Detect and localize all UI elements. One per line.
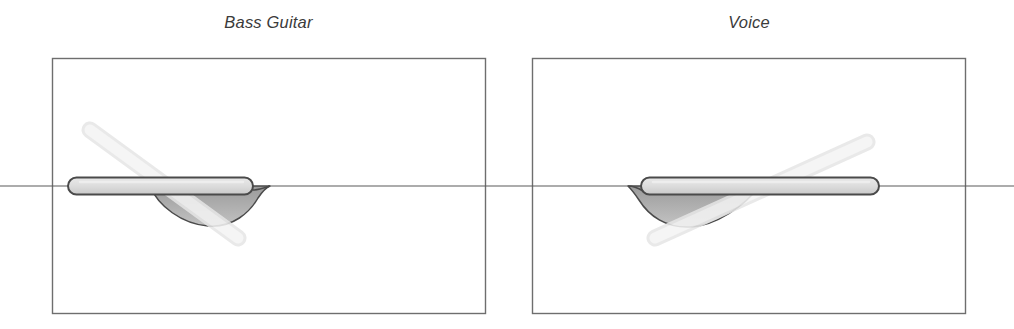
diagonal-bar-bass-guitar — [90, 130, 238, 238]
panel-title-bass-guitar: Bass Guitar — [52, 13, 485, 32]
panel-frame-voice — [533, 59, 966, 314]
waveform-lobe-bass-guitar — [150, 186, 270, 226]
panel-voice — [507, 59, 1014, 314]
waveform-pill-voice — [641, 178, 879, 195]
lobe-axis-connector-voice — [628, 186, 643, 191]
waveform-pill-bass-guitar — [68, 178, 253, 195]
diagram-svg — [0, 0, 1014, 329]
waveform-lobe-voice — [628, 186, 760, 227]
panel-bass-guitar — [0, 59, 507, 314]
diagonal-bar-voice — [655, 142, 867, 238]
figure-canvas: Bass Guitar Voice — [0, 0, 1014, 329]
panel-title-voice: Voice — [532, 13, 966, 32]
lobe-axis-connector-bass-guitar — [253, 186, 270, 190]
panel-frame-bass-guitar — [53, 59, 486, 314]
